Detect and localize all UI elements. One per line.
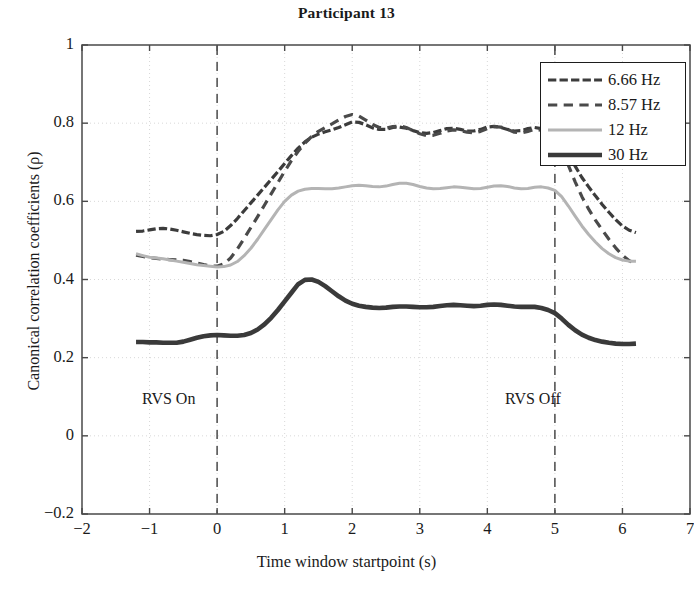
- y-tick-value: 0.8: [53, 112, 74, 132]
- legend-item-label: 8.57 Hz: [608, 97, 660, 114]
- y-tick-value: 0.4: [53, 269, 74, 289]
- x-tick-value: 2: [348, 519, 356, 539]
- x-tick-value: 3: [416, 519, 424, 539]
- legend-line-swatch: [547, 147, 603, 163]
- x-tick-value: 0: [213, 519, 221, 539]
- series-line-12-hz: [136, 183, 636, 267]
- x-tick-value: 5: [551, 519, 559, 539]
- x-axis-label: Time window startpoint (s): [0, 552, 693, 572]
- legend: 6.66 Hz8.57 Hz12 Hz30 Hz: [540, 62, 686, 166]
- legend-item-label: 6.66 Hz: [608, 72, 660, 89]
- x-tick-value: 7: [686, 519, 694, 539]
- annotation-rvs-off: RVS Off: [505, 390, 561, 408]
- legend-line-swatch: [547, 72, 603, 88]
- legend-item-12-hz[interactable]: 12 Hz: [541, 117, 687, 143]
- y-tick-value: 0.6: [53, 190, 74, 210]
- legend-item-label: 12 Hz: [608, 122, 648, 139]
- x-tick-value: −1: [141, 519, 159, 539]
- y-tick-value: 0.2: [53, 347, 74, 367]
- y-axis-label: Canonical correlation coefficients (ρ): [25, 51, 43, 491]
- x-tick-value: 4: [483, 519, 491, 539]
- legend-item-label: 30 Hz: [608, 147, 648, 164]
- x-tick-value: 6: [618, 519, 626, 539]
- legend-line-swatch: [547, 122, 603, 138]
- x-tick-value: −2: [73, 519, 91, 539]
- y-tick-value: 1: [66, 34, 74, 54]
- legend-item-8-57-hz[interactable]: 8.57 Hz: [541, 92, 687, 118]
- series-line-30-hz: [136, 280, 636, 344]
- y-tick-value: −0.2: [44, 503, 74, 523]
- legend-item-6-66-hz[interactable]: 6.66 Hz: [541, 67, 687, 93]
- legend-line-swatch: [547, 97, 603, 113]
- x-tick-value: 1: [281, 519, 289, 539]
- annotation-rvs-on: RVS On: [142, 390, 195, 408]
- legend-item-30-hz[interactable]: 30 Hz: [541, 142, 687, 168]
- y-tick-value: 0: [66, 425, 74, 445]
